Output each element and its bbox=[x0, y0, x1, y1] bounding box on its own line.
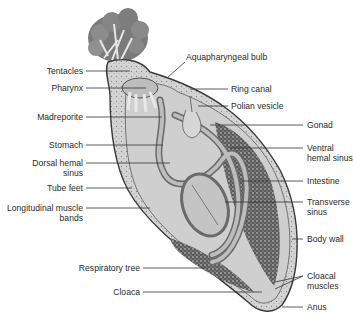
label-cloacal-muscles-line2: muscles bbox=[307, 281, 339, 291]
label-transverse-sinus-line2: sinus bbox=[307, 207, 350, 217]
label-respiratory-tree: Respiratory tree bbox=[79, 263, 140, 273]
label-polian-vesicle: Polian vesicle bbox=[231, 101, 284, 111]
sea-cucumber-anatomy-diagram: Tentacles Pharynx Madreporite Stomach Do… bbox=[0, 0, 353, 317]
label-pharynx: Pharynx bbox=[51, 83, 83, 93]
label-gonad: Gonad bbox=[307, 120, 333, 130]
label-transverse-sinus-line1: Transverse bbox=[307, 197, 350, 207]
label-tentacles: Tentacles bbox=[47, 66, 83, 76]
label-ring-canal: Ring canal bbox=[231, 84, 272, 94]
label-dorsal-hemal-sinus-line2: sinus bbox=[32, 168, 83, 178]
label-tube-feet: Tube feet bbox=[47, 183, 83, 193]
label-ventral-hemal-sinus-line2: hemal sinus bbox=[307, 153, 353, 163]
label-dorsal-hemal-sinus-line1: Dorsal hemal bbox=[32, 158, 83, 168]
label-cloaca: Cloaca bbox=[113, 287, 140, 297]
label-dorsal-hemal-sinus: Dorsal hemal sinus bbox=[32, 158, 83, 178]
label-longitudinal-muscle-bands: Longitudinal muscle bands bbox=[7, 203, 83, 223]
label-longitudinal-muscle-bands-line1: Longitudinal muscle bbox=[7, 203, 83, 213]
label-cloacal-muscles-line1: Cloacal bbox=[307, 271, 339, 281]
label-longitudinal-muscle-bands-line2: bands bbox=[7, 213, 83, 223]
label-madreporite: Madreporite bbox=[37, 112, 83, 122]
label-anus: Anus bbox=[307, 302, 327, 312]
label-body-wall: Body wall bbox=[307, 234, 344, 244]
label-cloacal-muscles: Cloacal muscles bbox=[307, 271, 339, 291]
label-intestine: Intestine bbox=[307, 176, 340, 186]
tentacle-crown bbox=[88, 8, 149, 62]
label-transverse-sinus: Transverse sinus bbox=[307, 197, 350, 217]
label-stomach: Stomach bbox=[49, 140, 83, 150]
label-aquapharyngeal-bulb: Aquapharyngeal bulb bbox=[186, 52, 267, 62]
label-ventral-hemal-sinus: Ventral hemal sinus bbox=[307, 143, 353, 163]
label-ventral-hemal-sinus-line1: Ventral bbox=[307, 143, 353, 153]
